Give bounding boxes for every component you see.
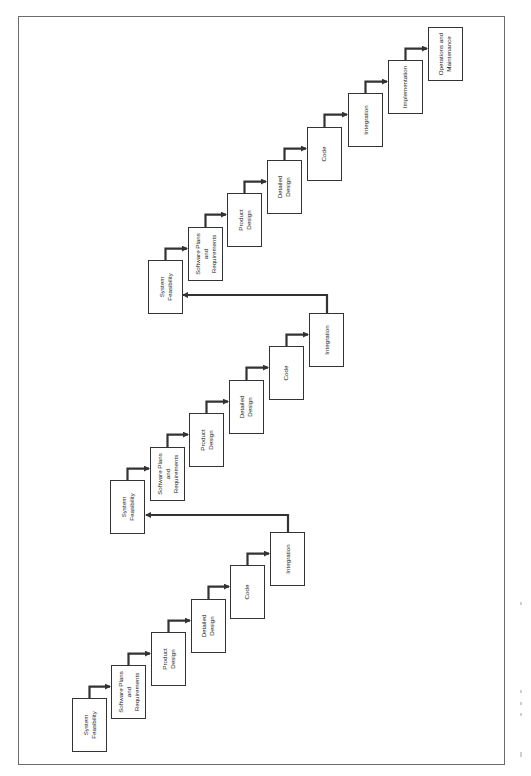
- flow-arrow: [206, 215, 227, 227]
- flow-arrow: [247, 368, 269, 380]
- step-box-system-feasibility: SystemFeasibility: [110, 480, 145, 534]
- step-label: DetailedDesign: [276, 176, 292, 199]
- step-box-detailed-design: DetailedDesign: [191, 599, 226, 653]
- step-label: Code: [282, 366, 290, 381]
- step-label: Integration: [362, 105, 370, 134]
- caption-fragment: [520, 690, 522, 693]
- step-label: Implementation: [402, 66, 410, 108]
- step-box-system-feasibility: SystemFeasibility: [148, 260, 183, 314]
- step-label: Software PlansandRequirements: [117, 671, 141, 713]
- step-box-integration: Integration: [309, 313, 344, 367]
- step-box-system-feasibility: SystemFeasibility: [72, 698, 107, 752]
- step-box-integration: Integration: [348, 93, 383, 147]
- step-box-operations-and-maintenance: Operations andMaintenance: [428, 27, 463, 81]
- flow-arrow: [128, 469, 150, 480]
- step-box-product-design: ProductDesign: [189, 413, 224, 467]
- flow-arrow: [325, 115, 348, 127]
- step-box-software-plans-and-requirements: Software PlansandRequirements: [150, 447, 185, 501]
- flow-arrow: [248, 554, 270, 565]
- step-box-integration: Integration: [270, 532, 305, 586]
- step-label: DetailedDesign: [238, 396, 254, 419]
- step-label: Code: [320, 147, 328, 162]
- flow-arrow: [285, 149, 307, 160]
- step-label: Software PlansandRequirements: [194, 233, 218, 275]
- feedback-arrow: [183, 295, 327, 313]
- flow-arrow: [90, 687, 111, 698]
- step-label: SystemFeasibility: [119, 493, 135, 521]
- flow-arrow: [207, 402, 229, 413]
- flow-arrow: [166, 249, 188, 260]
- flow-arrow: [366, 82, 388, 93]
- step-label: Integration: [284, 544, 292, 573]
- step-label: ProductDesign: [160, 648, 176, 669]
- flow-arrow: [169, 621, 191, 632]
- step-label: DetailedDesign: [200, 615, 216, 638]
- caption-fragment: [520, 602, 522, 605]
- flow-arrow: [209, 587, 230, 599]
- step-label: ProductDesign: [198, 429, 214, 450]
- flow-arrow: [168, 435, 189, 447]
- flow-arrow: [245, 182, 267, 193]
- step-box-implementation: Implementation: [388, 60, 423, 114]
- step-box-product-design: ProductDesign: [227, 193, 262, 247]
- feedback-arrow: [146, 515, 288, 532]
- flow-arrow: [406, 49, 428, 60]
- step-label: SystemFeasibility: [81, 711, 97, 739]
- step-label: Operations andMaintenance: [438, 33, 454, 75]
- step-label: SystemFeasibility: [157, 273, 173, 301]
- step-label: Code: [243, 585, 251, 600]
- caption-fragment: [520, 713, 522, 716]
- step-box-code: Code: [269, 346, 304, 400]
- step-label: Software PlansandRequirements: [156, 453, 180, 495]
- step-box-detailed-design: DetailedDesign: [267, 160, 302, 214]
- step-box-software-plans-and-requirements: Software PlansandRequirements: [188, 227, 223, 281]
- step-label: Integration: [323, 325, 331, 354]
- step-box-product-design: ProductDesign: [151, 632, 186, 686]
- step-box-code: Code: [307, 127, 342, 181]
- flow-arrow: [129, 654, 151, 665]
- caption-fragment: [520, 702, 522, 705]
- step-label: ProductDesign: [236, 209, 252, 230]
- step-box-software-plans-and-requirements: Software PlansandRequirements: [111, 665, 146, 719]
- waterfall-iterations-diagram: [0, 0, 531, 776]
- step-box-code: Code: [230, 565, 265, 619]
- caption-fragment: [520, 752, 522, 757]
- step-box-detailed-design: DetailedDesign: [229, 380, 264, 434]
- flow-arrow: [287, 335, 309, 346]
